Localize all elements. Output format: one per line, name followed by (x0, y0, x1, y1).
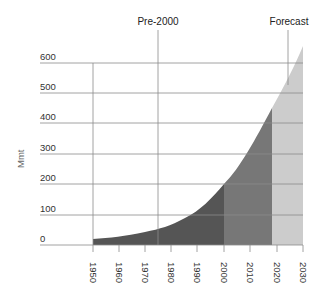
y-label-100: 100 (40, 203, 56, 214)
plastic-production-chart: 0 100 200 300 400 500 600 Mmt 1950 1960 … (0, 0, 325, 302)
x-label-2010: 2010 (245, 262, 256, 283)
area-fill (93, 30, 303, 245)
y-label-200: 200 (40, 172, 56, 183)
x-axis-labels: 1950 1960 1970 1980 1990 2000 2010 2020 … (88, 262, 309, 283)
x-label-1960: 1960 (114, 262, 125, 283)
y-axis-title: Mmt (15, 149, 26, 168)
x-label-1980: 1980 (166, 262, 177, 283)
x-label-2030: 2030 (298, 262, 309, 283)
x-label-2000: 2000 (219, 262, 230, 283)
annotation-pre2000: Pre-2000 (137, 16, 179, 27)
y-label-400: 400 (40, 111, 56, 122)
y-label-0: 0 (40, 233, 45, 244)
annotation-forecast: Forecast (270, 16, 309, 27)
region-2000-present (224, 30, 272, 245)
x-label-1970: 1970 (140, 262, 151, 283)
x-tick-marks (93, 245, 303, 252)
x-label-1950: 1950 (88, 262, 99, 283)
x-label-2020: 2020 (272, 262, 283, 283)
y-label-500: 500 (40, 81, 56, 92)
region-forecast (272, 30, 303, 245)
region-pre2000 (93, 30, 224, 245)
y-label-300: 300 (40, 142, 56, 153)
x-label-1990: 1990 (192, 262, 203, 283)
y-label-600: 600 (40, 51, 56, 62)
